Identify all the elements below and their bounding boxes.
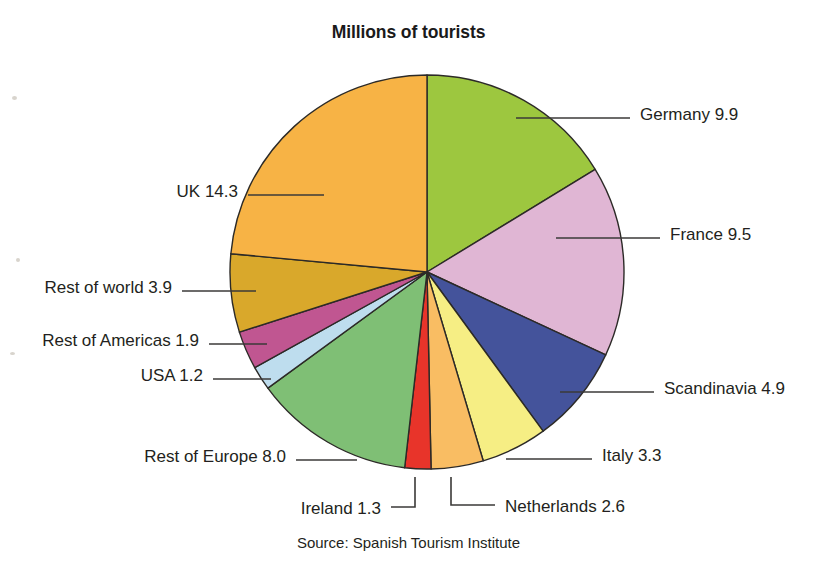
leader-line-ireland <box>391 477 415 507</box>
slice-label-france: France 9.5 <box>670 226 751 243</box>
slice-label-uk: UK 14.3 <box>177 183 238 200</box>
slice-label-italy: Italy 3.3 <box>602 447 662 464</box>
slice-label-ireland: Ireland 1.3 <box>301 500 381 517</box>
pie-chart-figure: Millions of tourists <box>0 0 817 576</box>
pie-slices <box>230 75 624 469</box>
slice-label-scandinavia: Scandinavia 4.9 <box>664 380 785 397</box>
pie-slice-uk <box>231 75 427 272</box>
slice-label-rest-of-world: Rest of world 3.9 <box>44 279 172 296</box>
slice-label-usa: USA 1.2 <box>141 367 203 384</box>
slice-label-germany: Germany 9.9 <box>640 106 738 123</box>
slice-label-rest-of-americas: Rest of Americas 1.9 <box>42 332 199 349</box>
leader-line-netherlands <box>451 477 495 505</box>
source-note: Source: Spanish Tourism Institute <box>0 534 817 551</box>
slice-label-rest-of-europe: Rest of Europe 8.0 <box>144 448 286 465</box>
slice-label-netherlands: Netherlands 2.6 <box>505 498 625 515</box>
